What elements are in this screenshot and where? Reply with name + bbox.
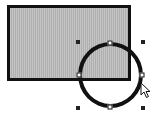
point-handle-right[interactable] (140, 73, 145, 78)
point-handle-top[interactable] (108, 41, 113, 46)
resize-handle-bottom-left[interactable] (76, 106, 80, 110)
resize-handle-top-right[interactable] (141, 40, 145, 44)
arrow-cursor-icon (140, 82, 154, 100)
drawing-canvas[interactable] (0, 0, 155, 117)
point-handle-left[interactable] (77, 73, 82, 78)
resize-handle-bottom-right[interactable] (141, 106, 145, 110)
resize-handle-top-left[interactable] (76, 40, 80, 44)
circle-shape[interactable] (78, 42, 143, 108)
point-handle-bottom[interactable] (108, 105, 113, 110)
